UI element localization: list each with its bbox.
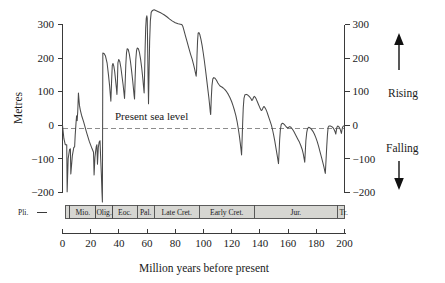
rising-arrow-icon — [394, 33, 404, 45]
x-tick-label-0: 0 — [60, 237, 66, 249]
x-tick-label-4: 80 — [170, 237, 182, 249]
sea-level-curve — [63, 10, 345, 202]
x-tick-label-6: 120 — [223, 237, 240, 249]
present-sea-level-label: Present sea level — [115, 110, 188, 122]
x-tick-label-1: 20 — [85, 237, 97, 249]
x-tick-label-10: 200 — [336, 237, 353, 249]
y-tick-label-left-0: −200 — [31, 186, 54, 198]
y-axis-right-labels: −200−1000100200300 — [353, 18, 376, 198]
y-axis-left: −200−1000100200300 Metres — [12, 18, 63, 198]
y-tick-label-left-4: 200 — [38, 52, 55, 64]
period-label-jur: Jur. — [290, 208, 301, 217]
period-label-early-cret: Early Cret. — [210, 208, 243, 217]
x-tick-label-7: 140 — [252, 237, 269, 249]
x-tick-label-2: 40 — [113, 237, 125, 249]
falling-annotation: Falling — [386, 142, 419, 190]
x-axis: 020406080100120140160180200 Million year… — [60, 229, 354, 276]
y-axis-title: Metres — [12, 92, 24, 124]
y-tick-label-right-4: 200 — [353, 52, 370, 64]
sea-level-chart: −200−1000100200300 Metres −200−100010020… — [0, 0, 445, 283]
y-tick-label-right-2: 0 — [353, 119, 359, 131]
y-axis-right: −200−1000100200300 — [345, 18, 376, 198]
x-tick-label-3: 60 — [142, 237, 154, 249]
x-axis-labels: 020406080100120140160180200 — [60, 237, 354, 249]
x-tick-label-5: 100 — [195, 237, 212, 249]
y-tick-label-left-1: −100 — [31, 153, 54, 165]
x-tick-label-9: 180 — [308, 237, 325, 249]
period-label-tr: Tr. — [339, 208, 347, 217]
y-axis-right-ticks — [345, 25, 350, 193]
rising-annotation: Rising — [388, 33, 418, 100]
period-box-unnamed — [65, 206, 70, 219]
geologic-timescale-bar: Pli.Mio.Olig.Eoc.Pal.Late Cret.Early Cre… — [18, 206, 348, 219]
x-axis-ticks — [63, 229, 345, 234]
x-axis-title: Million years before present — [139, 262, 270, 275]
chart-canvas: −200−1000100200300 Metres −200−100010020… — [0, 0, 445, 283]
falling-arrow-icon — [394, 178, 404, 190]
y-tick-label-right-3: 100 — [353, 85, 370, 97]
y-tick-label-right-0: −200 — [353, 186, 376, 198]
y-tick-label-right-5: 300 — [353, 18, 370, 30]
y-axis-left-labels: −200−1000100200300 — [31, 18, 54, 198]
y-tick-label-right-1: −100 — [353, 153, 376, 165]
y-axis-left-ticks — [58, 25, 63, 193]
period-label-mio: Mio. — [76, 208, 91, 217]
rising-label: Rising — [388, 87, 418, 100]
falling-label: Falling — [386, 142, 419, 155]
x-tick-label-8: 160 — [280, 237, 297, 249]
y-tick-label-left-5: 300 — [38, 18, 55, 30]
y-tick-label-left-2: 0 — [49, 119, 55, 131]
period-label-pli: Pli. — [18, 208, 28, 217]
period-label-olig: Olig. — [96, 208, 112, 217]
y-tick-label-left-3: 100 — [38, 85, 55, 97]
period-label-pal: Pal. — [140, 208, 152, 217]
period-label-late-cret: Late Cret. — [162, 208, 192, 217]
period-label-eoc: Eoc. — [118, 208, 132, 217]
